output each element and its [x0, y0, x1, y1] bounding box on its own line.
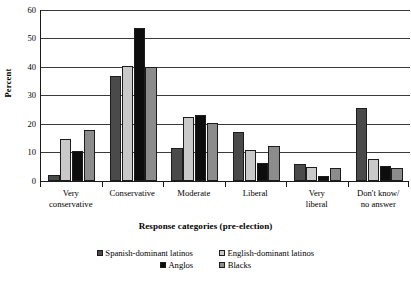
bar [294, 164, 305, 181]
legend-item[interactable]: Blacks [219, 260, 251, 270]
bar-group [48, 10, 95, 181]
y-tick-label: 40 [12, 63, 36, 72]
legend-label: Blacks [228, 260, 251, 270]
y-tick-label: 60 [12, 6, 36, 15]
legend-swatch-icon [219, 262, 225, 268]
x-tick-label-line: Liberal [225, 188, 287, 199]
x-tick-label: Moderate [163, 188, 225, 199]
bar-group [171, 10, 218, 181]
x-tick-mark [163, 182, 164, 187]
x-tick-label: Veryconservative [40, 188, 102, 209]
x-tick-label: Veryliberal [286, 188, 348, 209]
bar [207, 123, 218, 180]
legend-row: AnglosBlacks [0, 260, 411, 270]
bar [245, 150, 256, 181]
x-tick-label-line: Don't know/ [348, 188, 410, 199]
legend-item[interactable]: Spanish-dominant latinos [97, 248, 193, 258]
bar [48, 175, 59, 181]
x-tick-label: Conservative [102, 188, 164, 199]
legend-swatch-icon [97, 250, 103, 256]
x-tick-label-line: no answer [348, 199, 410, 210]
x-axis-tick-labels: VeryconservativeConservativeModerateLibe… [40, 188, 409, 214]
bar [145, 67, 156, 181]
x-tick-mark [225, 182, 226, 187]
x-tick-mark [286, 182, 287, 187]
x-tick-mark [348, 182, 349, 187]
bar [60, 139, 71, 181]
legend-swatch-icon [219, 250, 225, 256]
bar [233, 132, 244, 181]
bar [183, 117, 194, 181]
bar [72, 151, 83, 180]
bars-layer [41, 10, 410, 181]
x-tick-label-line: Moderate [163, 188, 225, 199]
bar [134, 28, 145, 181]
y-axis-tick-labels: 0102030405060 [12, 10, 36, 182]
y-tick-label: 20 [12, 120, 36, 129]
x-tick-label-line: Very [40, 188, 102, 199]
bar [306, 167, 317, 181]
bar-group [294, 10, 341, 181]
x-tick-label-line: liberal [286, 199, 348, 210]
bar [330, 168, 341, 181]
y-tick-label: 10 [12, 148, 36, 157]
y-tick-label: 50 [12, 34, 36, 43]
bar [356, 108, 367, 181]
bar [195, 115, 206, 181]
bar [268, 146, 279, 181]
bar-group [356, 10, 403, 181]
bar [122, 66, 133, 181]
legend-label: Spanish-dominant latinos [105, 248, 193, 258]
legend-item[interactable]: English-dominant latinos [219, 248, 314, 258]
bar-group [110, 10, 157, 181]
bar [84, 130, 95, 180]
plot-area [40, 10, 409, 182]
x-axis-title: Response categories (pre-election) [0, 221, 411, 231]
legend-row: Spanish-dominant latinosEnglish-dominant… [0, 248, 411, 258]
bar-group [233, 10, 280, 181]
bar [368, 159, 379, 181]
y-tick-label: 0 [12, 177, 36, 186]
x-tick-label-line: Conservative [102, 188, 164, 199]
x-tick-label: Liberal [225, 188, 287, 199]
x-tick-mark [408, 182, 409, 187]
bar [110, 76, 121, 181]
chart-legend: Spanish-dominant latinosEnglish-dominant… [0, 248, 411, 272]
bar [318, 176, 329, 180]
bar [391, 168, 402, 181]
x-tick-label: Don't know/no answer [348, 188, 410, 209]
x-tick-label-line: conservative [40, 199, 102, 210]
x-tick-label-line: Very [286, 188, 348, 199]
y-tick-label: 30 [12, 91, 36, 100]
bar [257, 163, 268, 180]
legend-item[interactable]: Anglos [160, 260, 193, 270]
bar-chart-figure: Percent 0102030405060 VeryconservativeCo… [0, 0, 411, 285]
legend-label: Anglos [168, 260, 193, 270]
bar [380, 166, 391, 181]
legend-label: English-dominant latinos [227, 248, 314, 258]
x-tick-mark [102, 182, 103, 187]
x-tick-mark [40, 182, 41, 187]
bar [171, 148, 182, 180]
legend-swatch-icon [160, 262, 166, 268]
